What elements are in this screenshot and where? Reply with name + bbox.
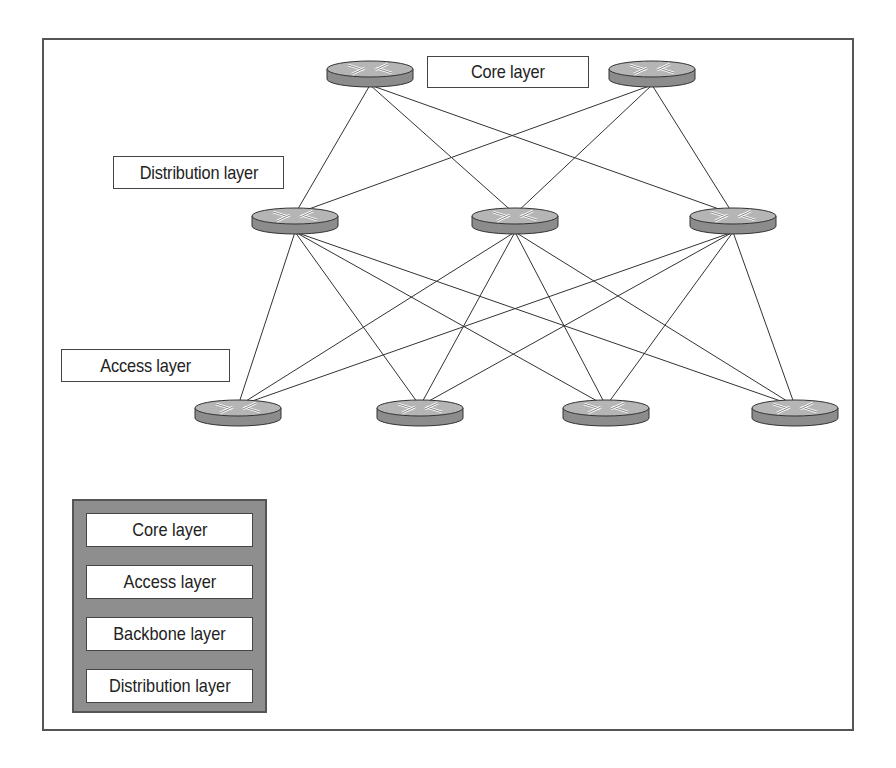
link [515, 85, 652, 214]
link [606, 232, 733, 406]
option-backbone-layer[interactable]: Backbone layer [86, 617, 253, 651]
link [295, 85, 652, 214]
router-icon [195, 400, 281, 426]
link [238, 232, 295, 406]
router-icon [377, 400, 463, 426]
router-icon [563, 400, 649, 426]
link [515, 232, 606, 406]
option-distribution-layer[interactable]: Distribution layer [86, 669, 253, 703]
link [295, 232, 606, 406]
router-icon [690, 208, 776, 234]
router-icon [252, 208, 338, 234]
router-icon [327, 61, 413, 87]
core-layer-label: Core layer [427, 56, 589, 88]
option-core-layer[interactable]: Core layer [86, 513, 253, 547]
link [652, 85, 733, 214]
router-icon [609, 61, 695, 87]
router-icon [472, 208, 558, 234]
link [515, 232, 795, 406]
option-access-layer[interactable]: Access layer [86, 565, 253, 599]
answer-options-panel: Core layer Access layer Backbone layer D… [72, 499, 267, 713]
distribution-layer-label: Distribution layer [113, 156, 284, 189]
link [295, 85, 370, 214]
access-layer-label: Access layer [61, 349, 230, 382]
link [295, 232, 795, 406]
link [370, 85, 733, 214]
link [238, 232, 733, 406]
link [370, 85, 515, 214]
link [238, 232, 515, 406]
link [733, 232, 795, 406]
router-icon [752, 400, 838, 426]
